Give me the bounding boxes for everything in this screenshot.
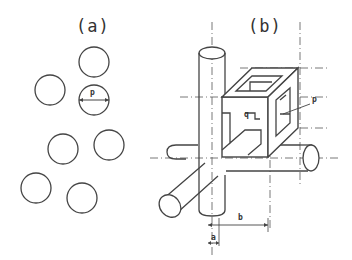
diagonal-strut-end xyxy=(155,190,186,221)
panel-label-b: (b) xyxy=(248,16,282,36)
dimension-label-p-a: p xyxy=(90,88,95,97)
panel-a-fibers xyxy=(21,47,124,213)
fiber-circle xyxy=(21,173,51,203)
fiber-circle xyxy=(94,130,124,160)
fiber-circle xyxy=(48,134,78,164)
panel-b-lattice xyxy=(150,22,340,258)
horizontal-strut xyxy=(167,145,198,159)
panel-label-a: (a) xyxy=(76,16,110,36)
fiber-circle xyxy=(67,183,97,213)
figure-canvas xyxy=(0,0,352,260)
dimension-label-b: b xyxy=(238,213,243,222)
dimension-label-p-b: p xyxy=(312,95,317,104)
fiber-circle xyxy=(79,47,109,77)
fiber-circle xyxy=(35,75,65,105)
dimension-label-q: q xyxy=(244,110,249,119)
cube-front-face xyxy=(222,97,268,157)
vertical-strut-top xyxy=(199,47,225,59)
dimension-label-a: a xyxy=(211,233,216,242)
horizontal-strut-end xyxy=(303,145,319,171)
